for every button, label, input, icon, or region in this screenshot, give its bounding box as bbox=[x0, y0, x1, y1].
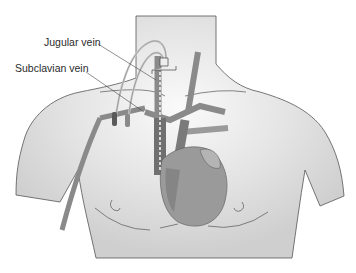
label-jugular-vein: Jugular vein bbox=[44, 36, 101, 48]
catheter-tip-1 bbox=[112, 112, 117, 126]
central-venous-catheter-diagram: Jugular vein Subclavian vein bbox=[0, 0, 356, 273]
label-subclavian-vein: Subclavian vein bbox=[15, 62, 89, 74]
catheter-tip-2 bbox=[125, 114, 130, 127]
